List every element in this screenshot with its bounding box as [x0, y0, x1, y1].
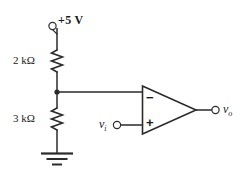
vo-label: vo	[223, 103, 232, 118]
resistor-symbol-r-bottom	[52, 108, 63, 130]
vo-subscript: o	[228, 109, 232, 118]
resistor-label-r-top: 2 kΩ	[13, 55, 35, 66]
resistor-symbol-r-top	[52, 50, 63, 72]
vi-label: vi	[99, 118, 107, 133]
circuit-schematic-canvas	[0, 0, 243, 183]
supply-label: +5 V	[58, 14, 84, 26]
vo-terminal[interactable]	[212, 106, 219, 113]
supply-terminal[interactable]	[49, 22, 56, 29]
opamp-inverting-sign: −	[146, 91, 154, 104]
vi-terminal[interactable]	[113, 121, 120, 128]
resistor-label-r-bottom: 3 kΩ	[13, 113, 35, 124]
opamp-noninverting-sign: +	[146, 116, 154, 129]
vi-subscript: i	[104, 124, 106, 133]
circuit-diagram: +5 V 2 kΩ 3 kΩ − + vi vo	[0, 0, 243, 183]
